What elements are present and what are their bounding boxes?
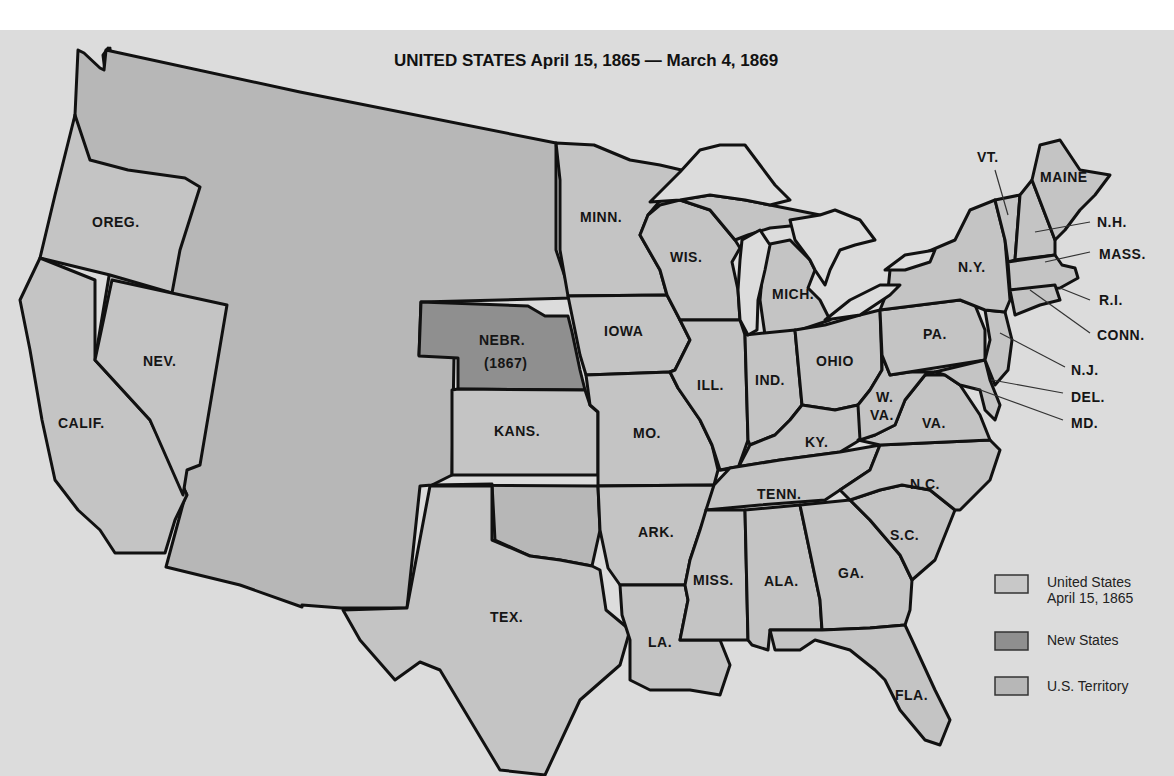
label-mass: MASS. <box>1099 246 1146 262</box>
label-kans: KANS. <box>494 423 540 439</box>
label-miss: MISS. <box>693 572 734 588</box>
label-oreg: OREG. <box>92 214 140 230</box>
label-ny: N.Y. <box>958 259 986 275</box>
label-nh: N.H. <box>1097 214 1127 230</box>
label-nc: N.C. <box>910 476 940 492</box>
label-iowa: IOWA <box>604 323 643 339</box>
label-ind: IND. <box>755 372 785 388</box>
label-mo: MO. <box>633 425 661 441</box>
label-fla: FLA. <box>895 687 928 703</box>
label-ark: ARK. <box>638 524 674 540</box>
label-nebr: NEBR. <box>479 332 525 348</box>
legend-swatch-states-1865 <box>995 575 1028 593</box>
label-vt: VT. <box>977 149 999 165</box>
label-minn: MINN. <box>580 209 622 225</box>
label-ohio: OHIO <box>816 353 854 369</box>
label-nj: N.J. <box>1071 362 1099 378</box>
legend-label-states-1865-line2: April 15, 1865 <box>1047 590 1134 606</box>
label-sc: S.C. <box>890 527 919 543</box>
label-ri: R.I. <box>1099 292 1123 308</box>
label-del: DEL. <box>1071 389 1105 405</box>
label-tenn: TENN. <box>757 486 802 502</box>
label-md: MD. <box>1071 415 1098 431</box>
label-wis: WIS. <box>670 249 702 265</box>
label-mich: MICH. <box>772 286 814 302</box>
legend-swatch-new-states <box>995 632 1028 650</box>
legend-swatch-territory <box>995 677 1028 695</box>
label-ill: ILL. <box>697 377 724 393</box>
legend-label-new-states: New States <box>1047 632 1119 648</box>
label-ky: KY. <box>805 434 828 450</box>
label-conn: CONN. <box>1097 327 1145 343</box>
label-maine: MAINE <box>1040 169 1088 185</box>
legend-label-territory: U.S. Territory <box>1047 678 1128 694</box>
label-tex: TEX. <box>490 609 523 625</box>
map-title: UNITED STATES April 15, 1865 — March 4, … <box>394 51 778 70</box>
label-pa: PA. <box>923 326 947 342</box>
label-nebr-year: (1867) <box>484 355 527 371</box>
label-ga: GA. <box>838 565 864 581</box>
label-nev: NEV. <box>143 353 176 369</box>
historical-us-map: UNITED STATES April 15, 1865 — March 4, … <box>0 0 1174 776</box>
label-wva-1: W. <box>876 389 893 405</box>
legend-label-states-1865-line1: United States <box>1047 574 1131 590</box>
label-la: LA. <box>648 634 672 650</box>
label-va: VA. <box>922 415 946 431</box>
label-wva-2: VA. <box>870 407 894 423</box>
label-ala: ALA. <box>764 573 799 589</box>
label-calif: CALIF. <box>58 415 105 431</box>
